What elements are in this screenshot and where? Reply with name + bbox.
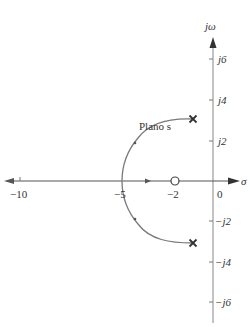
tick-label-neg-j6: −j6 — [215, 296, 231, 308]
arc-direction-marker-lower — [134, 218, 137, 221]
plane-title: Plano s — [139, 120, 171, 132]
real-axis-right-arrow-icon — [228, 178, 240, 185]
tick-label-j6: j6 — [216, 53, 227, 65]
tick-label-neg10: −10 — [10, 188, 28, 200]
tick-label-j4: j4 — [216, 94, 227, 106]
imag-axis-label: jω — [203, 20, 216, 32]
tick-label-0: 0 — [217, 188, 223, 200]
imag-axis-arrow-icon — [210, 37, 217, 48]
tick-label-neg-j2: −j2 — [215, 215, 231, 227]
locus-direction-arrow-icon — [145, 179, 151, 184]
tick-label-neg-j4: −j4 — [215, 256, 231, 268]
tick-label-j2: j2 — [216, 135, 227, 147]
zero-icon — [171, 177, 179, 185]
tick-label-neg2: −2 — [167, 188, 179, 200]
arc-direction-marker-upper — [134, 142, 137, 145]
root-locus-diagram: jω σ Plano s −10 −5 −2 0 j6 j4 j2 −j2 −j… — [0, 0, 252, 327]
real-axis-left-arrow-icon — [4, 178, 14, 184]
imaginary-axis — [209, 37, 217, 323]
tick-label-neg5: −5 — [114, 188, 126, 200]
real-axis-label: σ — [241, 175, 247, 187]
